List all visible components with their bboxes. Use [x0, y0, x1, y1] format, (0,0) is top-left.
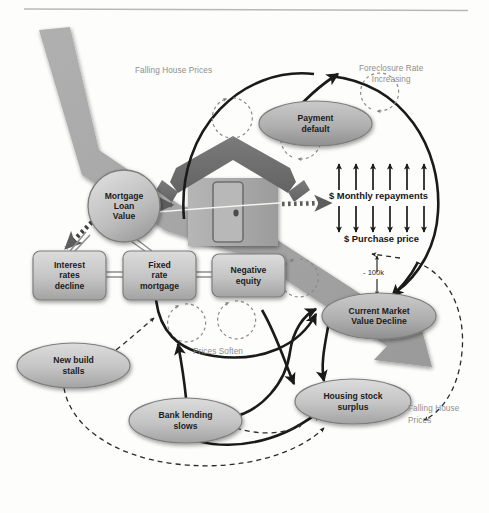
- loop-marker-5: [168, 304, 206, 342]
- monthly-repayments-arrows: [339, 164, 424, 190]
- node-new-build-stalls[interactable]: [17, 343, 130, 388]
- node-mortgage-loan-value[interactable]: [88, 170, 160, 242]
- diagram-canvas: Mortgage Loan Value Payment default Inte…: [0, 0, 489, 513]
- arrow-foreclosure-to-market-value: [392, 262, 418, 296]
- node-payment-default[interactable]: [259, 101, 372, 146]
- node-fixed-rate-mortgage[interactable]: [123, 251, 196, 300]
- node-bank-lending-slows[interactable]: [129, 398, 242, 443]
- arrow-new-build-to-fixed-rate: [116, 318, 154, 350]
- arrow-to-value-drop: [372, 254, 400, 258]
- house-door-icon: [213, 182, 243, 242]
- node-negative-equity[interactable]: [212, 254, 285, 297]
- purchase-price-arrows: [339, 206, 424, 232]
- loop-marker-6: [218, 301, 256, 339]
- node-interest-rates-decline[interactable]: [33, 251, 106, 300]
- node-current-market-value-decline[interactable]: [322, 293, 436, 339]
- arrow-negative-equity-to-housing-stock: [262, 310, 294, 384]
- arrow-bank-lending-to-fixed-rate: [178, 344, 186, 398]
- diagram-svg: [0, 0, 489, 513]
- arrow-bank-lending-dashed-housing-stock: [236, 424, 302, 433]
- node-housing-stock-surplus[interactable]: [295, 379, 411, 424]
- top-divider-rule: [24, 9, 468, 11]
- door-handle-icon: [233, 210, 238, 217]
- loop-marker-1: [212, 98, 252, 138]
- link-house-to-repayments: [282, 203, 330, 204]
